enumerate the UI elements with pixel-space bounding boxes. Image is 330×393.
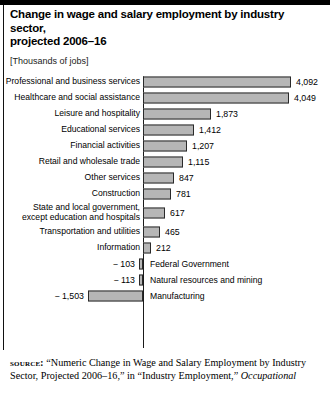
bar [88, 291, 143, 302]
bar-row: Transportation and utilities465 [0, 224, 330, 240]
bar-value-label: 1,115 [188, 157, 209, 167]
bar-value-label: 1,412 [199, 125, 221, 135]
bar-value-label: − 113 [113, 275, 135, 285]
bar-row: Financial activities1,207 [0, 138, 330, 154]
bar-value-label: 212 [156, 243, 171, 253]
bar [143, 109, 211, 120]
bar-row: − 103Federal Government [0, 256, 330, 272]
bar-rows: Professional and business services4,092H… [0, 74, 330, 304]
category-label: Professional and business services [6, 77, 140, 87]
category-label: Manufacturing [150, 291, 204, 301]
bar-value-label: 4,092 [296, 77, 318, 87]
bar-row: Information212 [0, 240, 330, 256]
chart-subtitle: [Thousands of jobs] [10, 56, 322, 67]
bar-value-label: − 103 [113, 259, 135, 269]
chart-header: Change in wage and salary employment by … [10, 8, 322, 67]
source-italic-title: Occupational [241, 370, 296, 381]
bar-row: Construction781 [0, 186, 330, 202]
category-label: Information [97, 243, 140, 253]
bar [143, 125, 194, 136]
bar-row: Other services847 [0, 170, 330, 186]
bar-value-label: 781 [176, 189, 191, 199]
bar [143, 173, 174, 184]
category-label: Retail and wholesale trade [39, 157, 140, 167]
bar [143, 93, 289, 104]
bar-value-label: 1,873 [216, 109, 238, 119]
source-note: source: “Numeric Change in Wage and Sala… [10, 357, 326, 382]
source-label: source: [10, 358, 44, 368]
category-label: Healthcare and social assistance [14, 93, 140, 103]
category-label: Other services [85, 173, 140, 183]
bar [143, 77, 291, 88]
bar [143, 208, 165, 219]
category-label: Transportation and utilities [40, 227, 140, 237]
bar-value-label: 847 [179, 173, 194, 183]
page-title: Change in wage and salary employment by … [10, 8, 322, 49]
bar [143, 141, 187, 152]
bar-value-label: 617 [170, 208, 185, 218]
bar-row: Leisure and hospitality1,873 [0, 106, 330, 122]
bar [143, 157, 183, 168]
bar-row: Retail and wholesale trade1,115 [0, 154, 330, 170]
bar-row: Professional and business services4,092 [0, 74, 330, 90]
bar [143, 243, 151, 254]
bar [143, 227, 160, 238]
bar-row: Healthcare and social assistance4,049 [0, 90, 330, 106]
category-label: Leisure and hospitality [54, 109, 140, 119]
bar-value-label: − 1,503 [54, 291, 84, 301]
category-label: Natural resources and mining [150, 275, 262, 285]
bar-row: − 113Natural resources and mining [0, 272, 330, 288]
bar-chart: Professional and business services4,092H… [0, 74, 330, 349]
category-label: Construction [92, 189, 140, 199]
bar [139, 275, 143, 286]
bar-row: State and local government, except educa… [0, 202, 330, 224]
bar-row: − 1,503Manufacturing [0, 288, 330, 304]
category-label: State and local government, except educa… [22, 203, 140, 223]
bar-value-label: 4,049 [294, 93, 316, 103]
bar-value-label: 465 [165, 227, 180, 237]
bar [143, 189, 171, 200]
bar [139, 259, 143, 270]
category-label: Federal Government [150, 259, 229, 269]
bar-value-label: 1,207 [192, 141, 214, 151]
top-rule [0, 0, 330, 5]
bar-row: Educational services1,412 [0, 122, 330, 138]
category-label: Educational services [61, 125, 140, 135]
category-label: Financial activities [70, 141, 140, 151]
